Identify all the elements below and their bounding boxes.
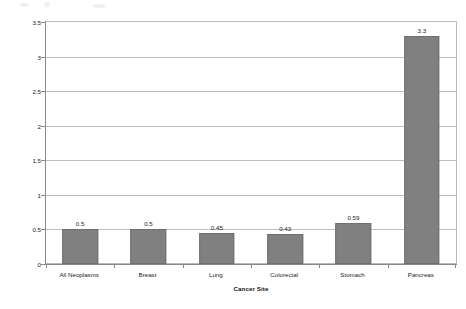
x-tick-mark <box>455 265 456 268</box>
y-tick-label: 1.5 <box>19 157 41 164</box>
scan-artifact <box>20 3 29 7</box>
x-tick-mark <box>319 265 320 268</box>
x-axis-title: Cancer Site <box>45 285 457 292</box>
bar-value-label: 0.43 <box>279 225 291 233</box>
x-category-label: Pancreas <box>387 270 455 279</box>
scan-artifact <box>44 2 50 7</box>
bar-group: 0.43 <box>251 22 319 264</box>
bar-value-label: 0.59 <box>347 214 359 222</box>
bar <box>131 229 167 264</box>
x-tick-mark <box>183 265 184 268</box>
x-tick-mark <box>46 265 47 268</box>
bar-group: 0.5 <box>46 22 114 264</box>
bar-group: 0.5 <box>114 22 182 264</box>
y-tick-mark <box>41 229 45 230</box>
x-category-label: Breast <box>113 270 181 279</box>
y-tick-mark <box>41 195 45 196</box>
y-tick-label: 3.5 <box>19 19 41 26</box>
y-tick-label: 2.5 <box>19 88 41 95</box>
y-tick-mark <box>41 160 45 161</box>
x-tick-mark <box>251 265 252 268</box>
bar-value-label: 0.45 <box>211 224 223 232</box>
y-tick-label: 3 <box>19 53 41 60</box>
x-axis-category-labels: All NeoplasmsBreastLungColorectalStomach… <box>45 270 457 282</box>
bar <box>404 36 440 264</box>
y-tick-label: 2 <box>19 122 41 129</box>
bar-chart: Standardised Morality Ratio 00.511.522.5… <box>0 0 466 309</box>
bar <box>199 233 235 264</box>
bar <box>62 229 98 264</box>
bar-value-label: 0.5 <box>76 220 85 228</box>
y-tick-label: 0.5 <box>19 226 41 233</box>
y-tick-label: 0 <box>19 261 41 268</box>
x-category-label: Colorectal <box>250 270 318 279</box>
y-tick-mark <box>41 57 45 58</box>
bars-layer: 0.50.50.450.430.593.3 <box>46 22 456 264</box>
x-axis-ticks <box>45 265 457 269</box>
bar-value-label: 3.3 <box>418 27 427 35</box>
bar-group: 0.59 <box>319 22 387 264</box>
bar-value-label: 0.5 <box>144 220 153 228</box>
y-tick-label: 1 <box>19 191 41 198</box>
bar-group: 3.3 <box>388 22 456 264</box>
bar-group: 0.45 <box>183 22 251 264</box>
y-tick-mark <box>41 126 45 127</box>
y-tick-mark <box>41 22 45 23</box>
x-category-label: Lung <box>182 270 250 279</box>
scan-artifact <box>92 4 106 8</box>
y-tick-mark <box>41 91 45 92</box>
bar <box>267 234 303 264</box>
x-tick-mark <box>114 265 115 268</box>
bar <box>336 223 372 264</box>
x-tick-mark <box>388 265 389 268</box>
x-category-label: Stomach <box>318 270 386 279</box>
x-category-label: All Neoplasms <box>45 270 113 279</box>
